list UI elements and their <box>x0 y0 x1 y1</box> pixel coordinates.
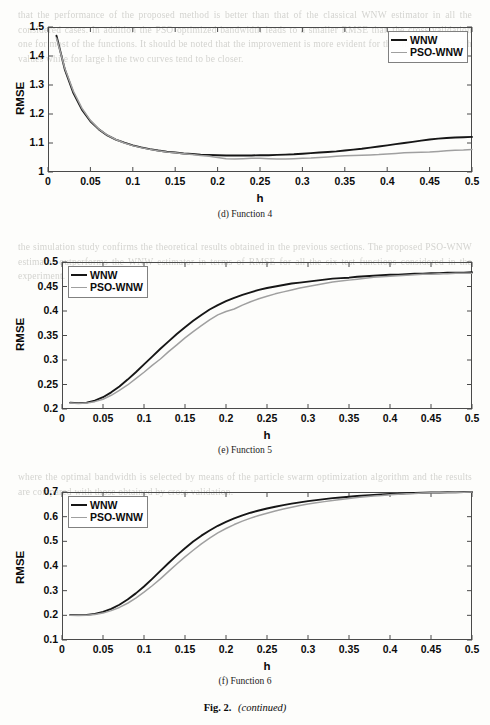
y-tick-label: 0.2 <box>18 402 58 414</box>
x-tick-label: 0.25 <box>247 412 287 424</box>
x-tick-label: 0.1 <box>113 175 153 187</box>
y-tick-label: 0.5 <box>18 534 58 546</box>
chart-3-x-axis-label: h <box>247 660 287 672</box>
x-tick-label: 0.35 <box>325 175 365 187</box>
x-tick-label: 0.05 <box>83 643 123 655</box>
x-tick-label: 0.35 <box>329 643 369 655</box>
legend-swatch-wnw <box>71 274 87 276</box>
legend-swatch-wnw <box>71 504 87 506</box>
x-tick-label: 0.4 <box>370 412 410 424</box>
legend-swatch-pso-wnw <box>71 517 87 518</box>
x-tick-label: 0.45 <box>411 643 451 655</box>
legend-label-wnw: WNW <box>90 269 117 281</box>
legend-entry-wnw: WNW <box>71 269 143 281</box>
y-tick-label: 0.5 <box>18 255 58 267</box>
y-tick-label: 0.6 <box>18 510 58 522</box>
y-tick-label: 0.3 <box>18 584 58 596</box>
x-tick-label: 0.05 <box>83 412 123 424</box>
x-tick-label: 0.5 <box>452 643 490 655</box>
legend-label-pso-wnw: PSO-WNW <box>90 511 143 523</box>
x-tick-label: 0.15 <box>155 175 195 187</box>
y-tick-label: 1 <box>4 165 44 177</box>
chart-3-subcaption: (f) Function 6 <box>0 676 490 686</box>
chart-3-legend: WNW PSO-WNW <box>68 496 148 528</box>
legend-entry-wnw: WNW <box>391 34 463 46</box>
chart-2-x-axis-label: h <box>247 429 287 441</box>
y-tick-label: 1.2 <box>4 107 44 119</box>
y-tick-label: 0.2 <box>18 608 58 620</box>
legend-swatch-pso-wnw <box>71 287 87 288</box>
chart-1-subcaption: (d) Function 4 <box>0 209 490 219</box>
x-tick-label: 0.15 <box>165 412 205 424</box>
legend-entry-wnw: WNW <box>71 499 143 511</box>
x-tick-label: 0.2 <box>206 643 246 655</box>
y-tick-label: 0.25 <box>18 378 58 390</box>
legend-label-pso-wnw: PSO-WNW <box>410 46 463 58</box>
chart-2-legend: WNW PSO-WNW <box>68 266 148 298</box>
x-tick-label: 0.5 <box>452 175 490 187</box>
y-tick-label: 1.5 <box>4 20 44 32</box>
y-tick-label: 0.1 <box>18 633 58 645</box>
legend-entry-pso-wnw: PSO-WNW <box>71 511 143 523</box>
y-tick-label: 0.45 <box>18 280 58 292</box>
page-canvas: that the performance of the proposed met… <box>0 0 490 725</box>
chart-2-subcaption: (e) Function 5 <box>0 445 490 455</box>
x-tick-label: 0.3 <box>288 643 328 655</box>
chart-function-6: RMSE WNW PSO-WNW h (f) Function 6 00.050… <box>0 466 490 698</box>
legend-label-pso-wnw: PSO-WNW <box>90 281 143 293</box>
figure-caption-suffix: (continued) <box>238 702 286 713</box>
figure-caption-prefix: Fig. 2. <box>204 702 232 713</box>
legend-swatch-pso-wnw <box>391 52 407 53</box>
legend-swatch-wnw <box>391 39 407 41</box>
x-tick-label: 0.2 <box>198 175 238 187</box>
y-tick-label: 0.3 <box>18 353 58 365</box>
x-tick-label: 0.25 <box>240 175 280 187</box>
y-tick-label: 0.7 <box>18 485 58 497</box>
x-tick-label: 0.1 <box>124 412 164 424</box>
y-tick-label: 0.4 <box>18 304 58 316</box>
x-tick-label: 0.4 <box>367 175 407 187</box>
chart-function-4: RMSE WNW PSO-WNW h (d) Function 4 00.050… <box>0 0 490 232</box>
x-tick-label: 0.3 <box>282 175 322 187</box>
chart-1-legend: WNW PSO-WNW <box>388 31 468 63</box>
x-tick-label: 0.35 <box>329 412 369 424</box>
x-tick-label: 0.15 <box>165 643 205 655</box>
legend-entry-pso-wnw: PSO-WNW <box>71 281 143 293</box>
x-tick-label: 0.05 <box>70 175 110 187</box>
x-tick-label: 0.45 <box>411 412 451 424</box>
x-tick-label: 0.5 <box>452 412 490 424</box>
x-tick-label: 0.3 <box>288 412 328 424</box>
chart-function-5: RMSE WNW PSO-WNW h (e) Function 5 00.050… <box>0 236 490 468</box>
legend-label-wnw: WNW <box>90 499 117 511</box>
x-tick-label: 0.45 <box>410 175 450 187</box>
x-tick-label: 0.25 <box>247 643 287 655</box>
legend-entry-pso-wnw: PSO-WNW <box>391 46 463 58</box>
chart-1-x-axis-label: h <box>240 192 280 204</box>
y-tick-label: 1.4 <box>4 49 44 61</box>
x-tick-label: 0.2 <box>206 412 246 424</box>
y-tick-label: 1.3 <box>4 78 44 90</box>
legend-label-wnw: WNW <box>410 34 437 46</box>
y-tick-label: 0.4 <box>18 559 58 571</box>
x-tick-label: 0.4 <box>370 643 410 655</box>
x-tick-label: 0.1 <box>124 643 164 655</box>
y-tick-label: 1.1 <box>4 136 44 148</box>
figure-caption: Fig. 2. (continued) <box>0 702 490 713</box>
y-tick-label: 0.35 <box>18 329 58 341</box>
